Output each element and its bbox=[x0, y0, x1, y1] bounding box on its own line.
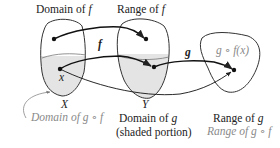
label-f: f bbox=[98, 38, 103, 51]
label-shaded-portion: (shaded portion) bbox=[116, 126, 192, 139]
label-range-of-gf: Range of g ∘ f bbox=[206, 125, 273, 138]
label-domain-of-f: Domain of f bbox=[36, 3, 93, 16]
label-set-Y: Y bbox=[142, 98, 150, 110]
label-set-X: X bbox=[60, 98, 69, 110]
label-domain-of-g: Domain of g bbox=[119, 112, 177, 125]
label-range-of-f: Range of f bbox=[117, 3, 167, 16]
set-X bbox=[30, 19, 90, 106]
label-x: x bbox=[58, 71, 65, 83]
label-gfx: g ∘ f(x) bbox=[216, 44, 249, 57]
label-range-of-g: Range of g bbox=[213, 112, 264, 125]
composition-diagram: Domain of f Range of f f g x g ∘ f(x) X … bbox=[0, 0, 280, 148]
set-Z bbox=[200, 33, 259, 93]
label-domain-of-gf: Domain of g ∘ f bbox=[30, 111, 105, 124]
label-g: g bbox=[184, 46, 191, 59]
